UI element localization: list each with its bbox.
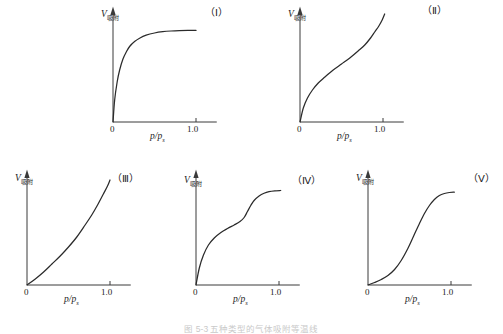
x-axis-label-sub: s — [417, 299, 420, 306]
x-tick-label-zero-5: 0 — [365, 288, 370, 297]
x-axis-label-main: p/p — [150, 131, 162, 141]
isotherm-curve — [196, 191, 281, 286]
y-axis-label-sub: 吸附 — [362, 179, 373, 185]
panel-tag-text: （Ⅱ） — [422, 5, 447, 16]
x-axis-label-sub: s — [76, 299, 79, 306]
tick-one-text: 1.0 — [374, 124, 385, 134]
x-axis-label-sub: s — [349, 136, 352, 143]
y-axis-label-1: V吸附 — [101, 10, 118, 21]
x-tick-label-one-5: 1.0 — [442, 288, 453, 297]
isotherm-curve — [300, 14, 385, 122]
isotherm-curve — [368, 192, 454, 285]
tick-zero-text: 0 — [193, 287, 198, 297]
x-axis-label-main: p/p — [64, 294, 76, 304]
x-axis-label-main: p/p — [337, 131, 349, 141]
x-tick-label-one-1: 1.0 — [187, 125, 198, 134]
panel-tag-5: （Ⅴ） — [468, 174, 495, 184]
x-tick-label-zero-3: 0 — [24, 288, 29, 297]
y-axis-label-sub: 吸附 — [190, 181, 201, 187]
isotherm-panel-5 — [354, 167, 486, 299]
panel-tag-3: （Ⅲ） — [112, 174, 139, 184]
isotherm-panel-2 — [286, 4, 418, 136]
panel-tag-4: （Ⅳ） — [292, 176, 321, 186]
x-axis-label-3: p/ps — [64, 295, 79, 306]
x-tick-label-one-3: 1.0 — [101, 288, 112, 297]
x-tick-label-one-4: 1.0 — [270, 288, 281, 297]
panel-tag-1: （Ⅰ） — [205, 8, 228, 18]
x-axis-label-sub: s — [162, 136, 165, 143]
panel-tag-2: （Ⅱ） — [422, 6, 447, 16]
isotherm-panel-4 — [182, 167, 314, 299]
x-tick-label-zero-4: 0 — [193, 288, 198, 297]
tick-zero-text: 0 — [24, 287, 29, 297]
y-axis-label-sub: 吸附 — [294, 15, 305, 21]
x-axis-label-2: p/ps — [337, 132, 352, 143]
y-axis-label-sub: 吸附 — [21, 179, 32, 185]
panel-tag-text: （Ⅲ） — [112, 173, 139, 184]
y-axis-label-sub: 吸附 — [107, 15, 118, 21]
y-axis-label-5: V吸附 — [356, 174, 373, 185]
tick-one-text: 1.0 — [187, 124, 198, 134]
tick-zero-text: 0 — [297, 124, 302, 134]
isotherm-curve — [27, 180, 110, 285]
y-axis-label-3: V吸附 — [15, 174, 32, 185]
x-tick-label-zero-2: 0 — [297, 125, 302, 134]
y-axis-label-4: V吸附 — [184, 176, 201, 187]
tick-one-text: 1.0 — [442, 287, 453, 297]
panel-tag-text: （Ⅳ） — [292, 175, 321, 186]
tick-one-text: 1.0 — [101, 287, 112, 297]
x-axis-label-4: p/ps — [233, 295, 248, 306]
x-axis-label-5: p/ps — [405, 295, 420, 306]
isotherm-panel-1 — [99, 4, 231, 136]
y-axis-label-2: V吸附 — [288, 10, 305, 21]
tick-zero-text: 0 — [110, 124, 115, 134]
x-tick-label-one-2: 1.0 — [374, 125, 385, 134]
figure-caption: 图 5-3 五种类型的气体吸附等温线 — [0, 322, 503, 334]
x-axis-label-main: p/p — [405, 294, 417, 304]
isotherm-curve — [113, 30, 196, 122]
isotherm-panel-3 — [13, 167, 145, 299]
panel-tag-text: （Ⅴ） — [468, 173, 495, 184]
x-axis-label-sub: s — [245, 299, 248, 306]
x-axis-label-main: p/p — [233, 294, 245, 304]
tick-zero-text: 0 — [365, 287, 370, 297]
panel-tag-text: （Ⅰ） — [205, 7, 228, 18]
x-axis-label-1: p/ps — [150, 132, 165, 143]
tick-one-text: 1.0 — [270, 287, 281, 297]
x-tick-label-zero-1: 0 — [110, 125, 115, 134]
